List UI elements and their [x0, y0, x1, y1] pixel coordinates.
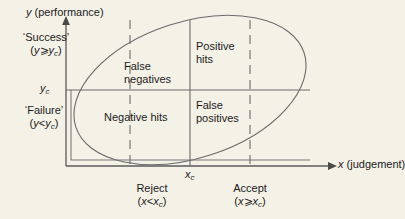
x-region-title-reject: Reject: [112, 182, 192, 195]
x-region-label-accept: Accept (x⩾xc): [210, 182, 290, 211]
x-axis-title: x (judgement): [338, 158, 405, 171]
x-axis-title-description: (judgement): [347, 158, 405, 170]
y-region-label-success: ‘Success’ (y⩾yc): [16, 31, 76, 60]
quadrant-label-negative-hits: Negative hits: [104, 111, 168, 124]
x-region-title-accept: Accept: [210, 182, 290, 195]
x-region-condition-accept: (x⩾xc): [210, 195, 290, 211]
y-region-condition-success: (y⩾yc): [16, 44, 76, 60]
y-region-condition-failure: (y<yc): [14, 117, 74, 133]
quadrant-label-false-positives: False positives: [196, 99, 239, 124]
x-axis-title-variable: x: [338, 158, 344, 170]
y-region-title-failure: ‘Failure’: [14, 104, 74, 117]
y-axis-tick-label-yc: yc: [40, 82, 50, 98]
y-axis-title: y (performance): [26, 6, 104, 19]
quadrant-label-positive-hits: Positive hits: [196, 40, 235, 65]
y-axis-title-description: (performance): [35, 6, 104, 18]
quadrant-label-false-negatives: False negatives: [124, 60, 171, 85]
x-region-condition-reject: (x<xc): [112, 195, 192, 211]
y-region-title-success: ‘Success’: [16, 31, 76, 44]
x-region-label-reject: Reject (x<xc): [112, 182, 192, 211]
y-region-label-failure: ‘Failure’ (y<yc): [14, 104, 74, 133]
y-axis-title-variable: y: [26, 6, 32, 18]
x-axis-arrowhead: [328, 162, 337, 170]
